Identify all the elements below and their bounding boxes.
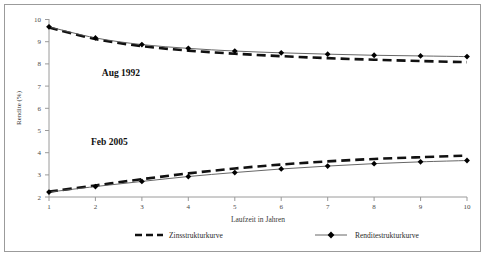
data-point-marker[interactable] <box>371 52 377 58</box>
x-tick-label: 5 <box>233 203 237 211</box>
data-point-marker[interactable] <box>46 189 52 195</box>
x-tick-label: 6 <box>279 203 283 211</box>
chart-plot-area: 10 9 8 7 6 5 4 3 2 1 2 3 4 <box>5 5 480 251</box>
y-tick-label: 7 <box>38 83 42 91</box>
chart-annotation-aug-1992: Aug 1992 <box>102 68 141 78</box>
legend-label: Zinsstrukturkurve <box>169 231 223 240</box>
data-point-marker[interactable] <box>418 53 424 59</box>
legend-label: Renditestrukturkurve <box>355 231 419 240</box>
y-tick-label: 5 <box>38 127 42 135</box>
data-point-marker[interactable] <box>185 174 191 180</box>
data-point-marker[interactable] <box>371 161 377 167</box>
legend-item-renditestrukturkurve[interactable]: Renditestrukturkurve <box>315 231 419 240</box>
data-point-marker[interactable] <box>278 166 284 172</box>
data-point-marker[interactable] <box>325 51 331 57</box>
x-axis-ticks: 1 2 3 4 5 6 7 8 9 10 <box>47 197 471 211</box>
data-series-layer <box>46 24 470 195</box>
x-tick-label: 10 <box>464 203 472 211</box>
y-tick-label: 3 <box>38 171 42 179</box>
chart-annotation-feb-2005: Feb 2005 <box>91 137 128 147</box>
data-point-marker[interactable] <box>464 54 470 60</box>
x-tick-label: 4 <box>187 203 191 211</box>
data-point-marker[interactable] <box>232 170 238 176</box>
x-tick-label: 8 <box>372 203 376 211</box>
x-tick-label: 2 <box>94 203 98 211</box>
x-tick-label: 3 <box>140 203 144 211</box>
y-tick-label: 10 <box>34 16 42 24</box>
data-point-marker[interactable] <box>464 158 470 164</box>
series-path-feb-2005-zinsstrukturkurve <box>49 156 467 192</box>
data-point-marker[interactable] <box>418 159 424 165</box>
x-tick-label: 1 <box>47 203 51 211</box>
y-tick-label: 2 <box>38 194 42 202</box>
diamond-marker-icon <box>328 232 335 239</box>
series-path-aug-1992-zinsstrukturkurve <box>49 27 467 62</box>
y-tick-label: 4 <box>38 149 42 157</box>
legend-item-zinsstrukturkurve[interactable]: Zinsstrukturkurve <box>135 231 223 240</box>
chart-legend: Zinsstrukturkurve Renditestrukturkurve <box>5 223 480 247</box>
data-point-marker[interactable] <box>325 163 331 169</box>
y-axis-title: Rendite (%) <box>15 90 23 125</box>
x-tick-label: 9 <box>419 203 423 211</box>
x-tick-label: 7 <box>326 203 330 211</box>
y-tick-label: 6 <box>38 105 42 113</box>
chart-figure-frame: 10 9 8 7 6 5 4 3 2 1 2 3 4 <box>4 4 481 252</box>
y-tick-label: 9 <box>38 38 42 46</box>
chart-annotations: Aug 1992Feb 2005 <box>91 68 140 147</box>
y-axis-ticks: 10 9 8 7 6 5 4 3 2 <box>34 16 49 202</box>
y-tick-label: 8 <box>38 60 42 68</box>
